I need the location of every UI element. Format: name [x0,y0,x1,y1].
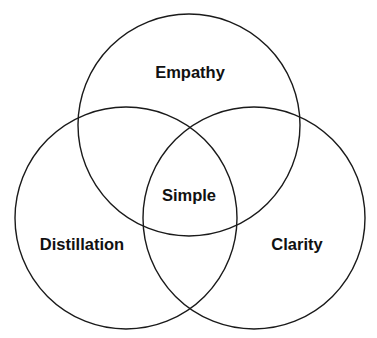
simple-label: Simple [162,186,216,205]
venn-diagram [0,0,377,338]
empathy-label: Empathy [155,63,225,82]
distillation-circle [15,107,237,329]
clarity-label: Clarity [271,235,322,254]
distillation-label: Distillation [40,235,124,254]
clarity-circle [143,107,365,329]
